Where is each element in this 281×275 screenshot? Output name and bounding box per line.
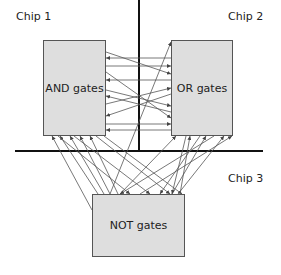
not-or-wire (172, 136, 186, 194)
chip-2-label: Chip 2 (228, 10, 263, 23)
not-and-wire (70, 136, 104, 194)
not-gates-block: NOT gates (92, 194, 185, 257)
not-and-wire (104, 136, 182, 194)
not-and-wire (80, 136, 110, 194)
and-gates-block: AND gates (43, 40, 106, 136)
not-or-wire (140, 136, 232, 194)
or-gates-block: OR gates (171, 40, 233, 136)
not-or-wire (120, 136, 214, 194)
not-or-wire (160, 136, 200, 194)
not-and-wire (96, 136, 170, 194)
chip-3-label: Chip 3 (228, 172, 263, 185)
chip-1-label: Chip 1 (16, 10, 51, 23)
